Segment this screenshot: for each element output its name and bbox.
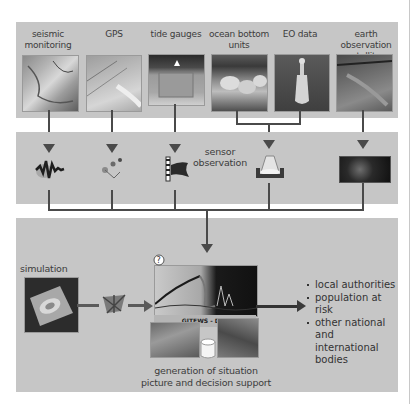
eo-data-photo: [274, 54, 330, 112]
label-tide-gauges: tide gauges: [144, 29, 208, 40]
seismic-map-photo: [22, 55, 79, 112]
simulation-label: simulation: [20, 263, 80, 274]
database-icon: [200, 338, 216, 360]
connector-ocean: [236, 110, 238, 124]
dss-to-recipients-line: [256, 305, 298, 308]
arrow-to-recipients: [297, 300, 306, 312]
label-seismic: seismic monitoring: [16, 29, 80, 51]
arrow-satellite: [357, 140, 369, 149]
recipient-local-authorities: local authorities: [306, 279, 398, 292]
seismogram-icon: [34, 156, 66, 182]
label-gps: GPS: [86, 29, 142, 40]
recipient-bodies: bodies: [306, 354, 398, 367]
sensor-line-tide: [174, 190, 176, 211]
arrow-gps: [106, 144, 118, 153]
question-icon: ?: [152, 254, 166, 270]
satellite-image-icon: [339, 156, 391, 183]
arrow-to-dss-left: [144, 300, 153, 312]
network-model-icon: [99, 291, 129, 317]
tide-gauge-icon: [162, 155, 192, 183]
gps-photo: [86, 55, 142, 112]
gps-buoy-icon: [100, 156, 126, 182]
tide-gauge-photo: [148, 54, 205, 106]
dss-map-right: [217, 318, 259, 358]
svg-text:?: ?: [157, 256, 161, 265]
satellite-photo: [336, 54, 393, 112]
recipient-list: local authorities population at risk oth…: [306, 279, 398, 367]
recipient-international: and international: [306, 329, 398, 354]
arrow-tide: [169, 144, 181, 153]
dss-caption: generation of situation picture and deci…: [136, 365, 276, 389]
ocean-bottom-unit-photo: [211, 54, 268, 112]
simulation-image: [24, 277, 79, 333]
sensor-line-ocean: [268, 183, 270, 211]
connector-eo: [299, 110, 301, 124]
arrow-ocean-eo: [263, 140, 275, 149]
recipient-other-national: other national: [306, 317, 398, 330]
arrow-seismic: [43, 144, 55, 153]
sensor-line-satellite: [362, 183, 364, 211]
label-ocean-bottom: ocean bottom units: [206, 29, 272, 51]
dss-map-left: [150, 322, 200, 358]
recipient-population-at-risk: population at risk: [306, 292, 398, 317]
label-eo-data: EO data: [270, 29, 330, 40]
sensor-line-gps: [111, 190, 113, 211]
page-right-border: [409, 0, 410, 404]
arrow-to-dss: [201, 244, 213, 253]
ocean-bottom-unit-icon: [255, 152, 285, 182]
dss-screen-image: [154, 265, 258, 317]
sim-to-model-line: [77, 304, 99, 307]
main-down-line-inner: [206, 218, 208, 246]
sensor-line-seismic: [48, 190, 50, 211]
sensor-observation-label: sensor observation: [192, 146, 248, 168]
